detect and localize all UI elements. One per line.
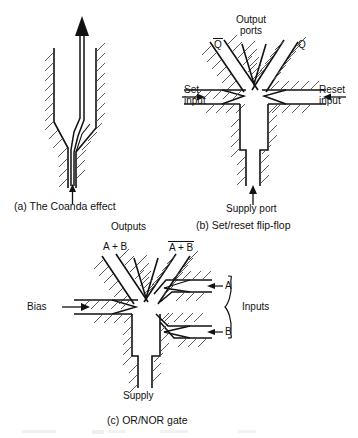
label-or-output: A + B	[103, 241, 127, 252]
label-inputs-group: Inputs	[242, 301, 269, 312]
figure-coanda-effect: (a) The Coanda effect	[0, 0, 180, 225]
label-bias-input: Bias	[27, 301, 46, 312]
label-outputs-group: Outputs	[111, 221, 146, 232]
label-supply-port: Supply port	[226, 203, 277, 214]
label-q-output: Q	[298, 39, 306, 50]
label-reset-input: Reset input	[319, 84, 345, 106]
label-q-bar-output: Q	[213, 38, 223, 50]
label-nor-output: A + B	[168, 241, 194, 253]
label-input-b: B	[225, 326, 232, 337]
caption-c: (c) OR/NOR gate	[107, 414, 188, 426]
label-input-a: A	[225, 280, 232, 291]
label-output-ports: Output ports	[221, 14, 281, 36]
coanda-effect-drawing	[0, 0, 180, 205]
scan-artifact-strip	[0, 426, 358, 438]
figure-set-reset-flip-flop: Output ports Q Q Set input Reset input S…	[180, 0, 358, 232]
label-set-input: Set input	[184, 84, 206, 106]
figure-or-nor-gate: Outputs A + B A + B Bias A B Inputs Supp…	[60, 222, 300, 438]
caption-a: (a) The Coanda effect	[14, 200, 116, 212]
label-supply: Supply	[123, 390, 154, 401]
